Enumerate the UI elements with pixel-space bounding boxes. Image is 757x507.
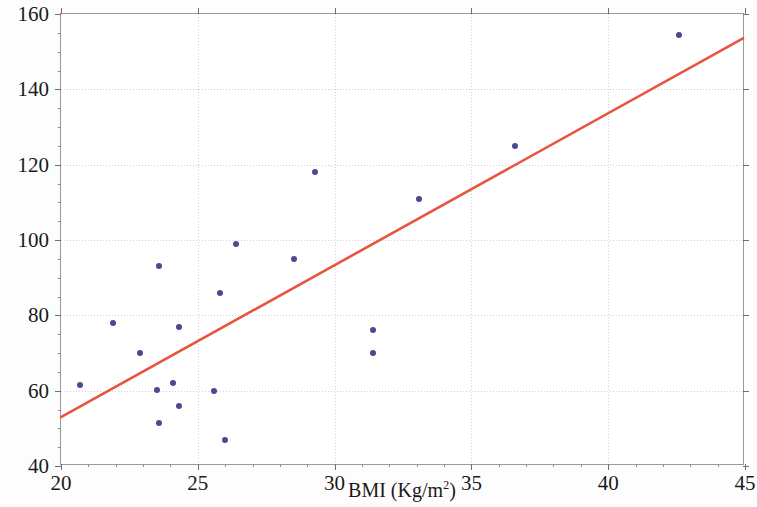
data-point [156, 263, 162, 269]
y-axis-tick [55, 165, 61, 166]
data-point [416, 196, 422, 202]
data-point [170, 380, 176, 386]
x-axis-tick-top [61, 8, 62, 14]
data-point [676, 32, 682, 38]
y-axis-minor-tick [58, 410, 61, 411]
x-axis-title: BMI (Kg/m2) [60, 478, 744, 502]
y-axis-tick-right [743, 315, 749, 316]
x-axis-tick-label: 25 [187, 473, 208, 494]
x-axis-minor-tick [690, 464, 691, 467]
data-point [233, 241, 239, 247]
data-point [176, 324, 182, 330]
y-axis-tick-right [743, 165, 749, 166]
y-axis-minor-tick [58, 221, 61, 222]
x-axis-tick-top [608, 8, 609, 14]
data-point [156, 420, 162, 426]
y-axis-tick-label: 120 [18, 154, 50, 175]
y-axis-minor-tick [58, 184, 61, 185]
y-axis-tick [55, 240, 61, 241]
data-point [312, 169, 318, 175]
x-axis-minor-tick [362, 464, 363, 467]
y-axis-tick-label: 160 [18, 4, 50, 25]
y-axis-minor-tick [58, 372, 61, 373]
x-axis-minor-tick [389, 464, 390, 467]
y-axis-tick-label: 140 [18, 79, 50, 100]
x-axis-title-base: BMI (Kg/m [348, 479, 443, 501]
x-axis-tick-top [745, 8, 746, 14]
y-axis-tick-label: 60 [28, 380, 49, 401]
data-point [211, 388, 217, 394]
data-point [217, 290, 223, 296]
y-axis-tick-right [743, 466, 749, 467]
x-axis-tick [335, 464, 336, 470]
data-point [512, 143, 518, 149]
x-axis-minor-tick [526, 464, 527, 467]
x-axis-tick [61, 464, 62, 470]
data-point [77, 382, 83, 388]
x-axis-minor-tick [636, 464, 637, 467]
y-axis-minor-tick [58, 127, 61, 128]
x-axis-tick [745, 464, 746, 470]
y-axis-tick-right [743, 240, 749, 241]
y-axis-minor-tick [58, 71, 61, 72]
y-axis-tick-right [743, 14, 749, 15]
y-axis-minor-tick [58, 334, 61, 335]
y-axis-minor-tick [58, 33, 61, 34]
x-axis-minor-tick [718, 464, 719, 467]
data-point [110, 320, 116, 326]
x-axis-minor-tick [88, 464, 89, 467]
x-axis-minor-tick [663, 464, 664, 467]
x-axis-tick-label: 30 [324, 473, 345, 494]
x-axis-minor-tick [499, 464, 500, 467]
y-axis-minor-tick [58, 146, 61, 147]
x-axis-minor-tick [116, 464, 117, 467]
x-axis-tick-label: 35 [461, 473, 482, 494]
data-point [370, 327, 376, 333]
y-axis-minor-tick [58, 278, 61, 279]
x-axis-minor-tick [225, 464, 226, 467]
y-axis-tick [55, 315, 61, 316]
data-point [291, 256, 297, 262]
x-axis-tick-top [198, 8, 199, 14]
y-axis-minor-tick [58, 108, 61, 109]
y-axis-minor-tick [58, 297, 61, 298]
plot-area: 406080100120140160202530354045 [60, 13, 744, 465]
x-axis-tick [608, 464, 609, 470]
y-axis-minor-tick [58, 428, 61, 429]
x-axis-minor-tick [553, 464, 554, 467]
y-axis-tick-label: 80 [28, 305, 49, 326]
x-axis-minor-tick [280, 464, 281, 467]
x-axis-tick-label: 40 [598, 473, 619, 494]
data-point [370, 350, 376, 356]
data-point [176, 403, 182, 409]
x-axis-tick [198, 464, 199, 470]
y-axis-tick [55, 14, 61, 15]
x-axis-tick-top [471, 8, 472, 14]
x-axis-tick-label: 45 [735, 473, 756, 494]
x-axis-tick-label: 20 [51, 473, 72, 494]
y-axis-tick-right [743, 89, 749, 90]
x-axis-tick-top [335, 8, 336, 14]
x-axis-minor-tick [143, 464, 144, 467]
x-axis-minor-tick [581, 464, 582, 467]
data-point [222, 437, 228, 443]
y-axis-minor-tick [58, 259, 61, 260]
y-axis-minor-tick [58, 353, 61, 354]
x-axis-title-tail: ) [449, 479, 456, 501]
y-axis-minor-tick [58, 52, 61, 53]
data-points-layer [61, 14, 743, 464]
y-axis-tick [55, 391, 61, 392]
y-axis-minor-tick [58, 447, 61, 448]
x-axis-minor-tick [444, 464, 445, 467]
y-axis-tick-right [743, 391, 749, 392]
x-axis-minor-tick [170, 464, 171, 467]
x-axis-minor-tick [253, 464, 254, 467]
y-axis-minor-tick [58, 202, 61, 203]
x-axis-minor-tick [417, 464, 418, 467]
scatter-plot-figure: Time (Minutes) BMI (Kg/m2) 4060801001201… [0, 0, 757, 507]
y-axis-tick [55, 89, 61, 90]
y-axis-tick-label: 100 [18, 230, 50, 251]
x-axis-minor-tick [307, 464, 308, 467]
data-point [137, 350, 143, 356]
x-axis-tick [471, 464, 472, 470]
